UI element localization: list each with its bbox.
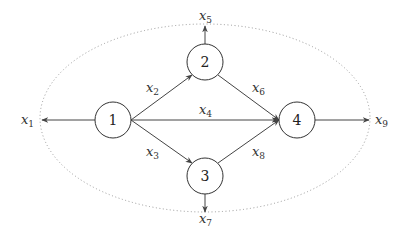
- node-3-label: 3: [201, 168, 210, 184]
- node-4-label: 4: [293, 112, 302, 128]
- edge-x8: [218, 120, 279, 163]
- node-1: 1: [95, 102, 131, 138]
- edge-x3: [131, 120, 192, 163]
- label-x7: x7: [199, 211, 212, 228]
- label-x3: x3: [146, 144, 159, 161]
- flow-network-diagram: 1 2 3 4 x1 x2 x3 x4 x5 x6 x7 x8 x9: [0, 0, 408, 239]
- node-4: 4: [279, 102, 315, 138]
- label-x8: x8: [252, 144, 265, 161]
- node-2-label: 2: [201, 54, 210, 70]
- node-2: 2: [187, 44, 223, 80]
- label-x4: x4: [199, 102, 212, 119]
- edge-x2: [131, 75, 192, 120]
- edge-x6: [218, 75, 279, 120]
- label-x5: x5: [199, 8, 212, 25]
- label-x9: x9: [375, 112, 388, 129]
- node-1-label: 1: [109, 112, 118, 128]
- label-x2: x2: [146, 80, 159, 97]
- node-3: 3: [187, 158, 223, 194]
- label-x6: x6: [252, 80, 265, 97]
- label-x1: x1: [21, 112, 34, 129]
